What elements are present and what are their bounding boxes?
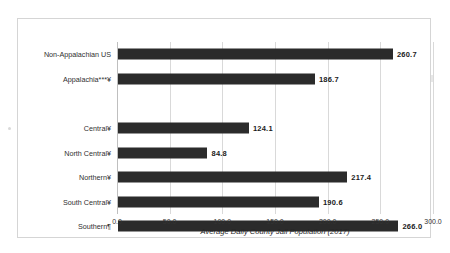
- plot-area: Non-Appalachian US 260.7 Appalachia***¥ …: [117, 42, 433, 214]
- bar-value-label: 186.7: [319, 74, 339, 83]
- bar[interactable]: [118, 123, 249, 134]
- x-tick-label: 250.0: [372, 218, 390, 225]
- category-label: Southern¶: [78, 222, 111, 231]
- x-tick-label: 0.0: [112, 218, 122, 225]
- x-tick-label: 50.0: [163, 218, 177, 225]
- bar-value-label: 124.1: [253, 124, 273, 133]
- bar-row: Northern¥ 217.4: [117, 165, 433, 190]
- bar-value-label: 260.7: [397, 50, 417, 59]
- category-label: Northern¥: [79, 173, 111, 182]
- bar-row: Central¥ 124.1: [117, 116, 433, 141]
- bar[interactable]: [118, 147, 207, 158]
- bar[interactable]: [118, 73, 315, 84]
- category-label: Appalachia***¥: [63, 74, 111, 83]
- category-label: North Central¥: [64, 148, 111, 157]
- gridline: [433, 42, 434, 214]
- x-axis-title: Average Daily County Jail Population (20…: [117, 227, 433, 236]
- category-label: South Central¥: [63, 197, 111, 206]
- bar[interactable]: [118, 49, 393, 60]
- chart-frame: Non-Appalachian US 260.7 Appalachia***¥ …: [17, 18, 431, 238]
- bar[interactable]: [118, 196, 319, 207]
- category-label: Non-Appalachian US: [44, 50, 111, 59]
- bar-row: Non-Appalachian US 260.7: [117, 42, 433, 67]
- x-tick-label: 150.0: [266, 218, 284, 225]
- x-tick-label: 100.0: [214, 218, 232, 225]
- bar-row: South Central¥ 190.6: [117, 190, 433, 215]
- x-tick-label: 200.0: [319, 218, 337, 225]
- bar-value-label: 190.6: [323, 197, 343, 206]
- bar-row: Appalachia***¥ 186.7: [117, 67, 433, 92]
- bar-row-empty: [117, 91, 433, 116]
- bar[interactable]: [118, 172, 347, 183]
- category-label: Central¥: [84, 124, 111, 133]
- bar-value-label: 84.8: [212, 148, 227, 157]
- scan-artifact-dot: [8, 127, 11, 130]
- x-tick-label: 300.0: [424, 218, 442, 225]
- bar-value-label: 217.4: [351, 173, 371, 182]
- bar-row: North Central¥ 84.8: [117, 140, 433, 165]
